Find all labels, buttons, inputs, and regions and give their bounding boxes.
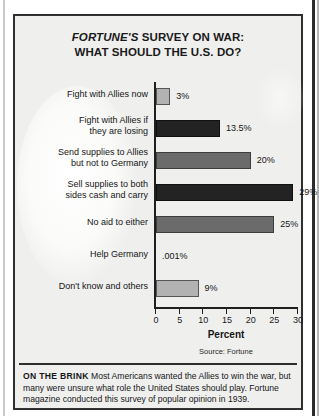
chart-title-line-1-rest: SURVEY ON WAR: [138,31,244,43]
bar-5[interactable] [156,216,274,233]
bar-category-label-line-1: Send supplies to Allies [21,147,148,158]
chart-title-line-1: FORTUNE'S SURVEY ON WAR: [15,30,301,45]
bar-category-label: Sell supplies to bothsides cash and carr… [21,179,148,201]
x-tick-0 [155,309,156,314]
x-tick-10 [202,309,203,314]
x-tick-label-20: 20 [241,315,261,325]
scan-artifact-right-rule-secondary [317,0,319,416]
chart-title-line-2: WHAT SHOULD THE U.S. DO? [15,45,301,60]
bar-category-label-line-2: they are losing [21,126,148,137]
bar-category-label: Help Germany [21,249,148,260]
chart-row: Fight with Allies now3% [15,88,305,105]
x-tick-15 [226,309,227,314]
bar-2[interactable] [156,120,220,137]
scan-artifact-left-rule [3,0,5,416]
bar-value-label: 29% [299,187,317,197]
bar-value-label: .001% [162,251,188,261]
bar-4[interactable] [156,184,293,201]
chart-row: Fight with Allies ifthey are losing13.5% [15,120,305,137]
bar-7[interactable] [156,280,199,297]
x-tick-label-25: 25 [264,315,284,325]
x-tick-label-0: 0 [146,315,166,325]
chart-row: No aid to either25% [15,216,305,233]
figure-container: FORTUNE'S SURVEY ON WAR: WHAT SHOULD THE… [13,14,303,410]
bar-category-label-line-1: Don't know and others [21,281,148,292]
chart-source-note: Source: Fortune [154,347,298,356]
plot-area: Fight with Allies now3%Fight with Allies… [15,82,305,322]
bar-category-label: Fight with Allies now [21,89,148,100]
bar-value-label: 25% [280,219,298,229]
x-tick-label-10: 10 [193,315,213,325]
bar-value-label: 3% [176,91,189,101]
bar-category-label-line-1: Fight with Allies now [21,89,148,100]
x-tick-20 [250,309,251,314]
x-tick-25 [273,309,274,314]
bar-value-label: 9% [205,283,218,293]
bar-3[interactable] [156,152,251,169]
x-tick-5 [179,309,180,314]
scan-artifact-right-rule [312,0,315,416]
chart-title-brand: FORTUNE'S [72,31,139,43]
figure-caption: ON THE BRINK Most Americans wanted the A… [23,371,293,406]
bar-value-label: 20% [257,155,275,165]
x-tick-label-15: 15 [217,315,237,325]
x-tick-30 [297,309,298,314]
bar-category-label: No aid to either [21,217,148,228]
bar-category-label-line-1: Fight with Allies if [21,115,148,126]
caption-divider [19,363,297,365]
x-axis-title: Percent [154,329,298,340]
bar-value-label: 13.5% [226,123,252,133]
bar-category-label: Fight with Allies ifthey are losing [21,115,148,137]
chart-row: Send supplies to Alliesbut not to German… [15,152,305,169]
chart-row: Don't know and others9% [15,280,305,297]
bar-category-label-line-1: No aid to either [21,217,148,228]
chart-row: Sell supplies to bothsides cash and carr… [15,184,305,201]
bar-category-label-line-2: sides cash and carry [21,190,148,201]
bar-category-label-line-1: Help Germany [21,249,148,260]
x-tick-label-5: 5 [170,315,190,325]
bar-category-label: Don't know and others [21,281,148,292]
bar-category-label: Send supplies to Alliesbut not to German… [21,147,148,169]
bar-category-label-line-1: Sell supplies to both [21,179,148,190]
bar-1[interactable] [156,88,170,105]
chart-row: Help Germany.001% [15,248,305,265]
x-tick-label-30: 30 [288,315,308,325]
chart-panel: FORTUNE'S SURVEY ON WAR: WHAT SHOULD THE… [15,16,301,356]
chart-title: FORTUNE'S SURVEY ON WAR: WHAT SHOULD THE… [15,30,301,60]
caption-lead: ON THE BRINK [23,371,89,381]
bar-category-label-line-2: but not to Germany [21,158,148,169]
